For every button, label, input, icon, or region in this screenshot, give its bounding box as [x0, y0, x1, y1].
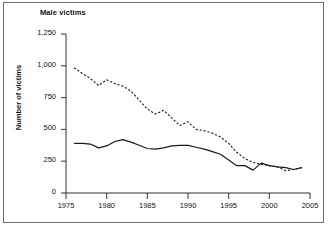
x-tick-label: 1980 [90, 201, 124, 210]
series-line-solid [74, 140, 302, 171]
x-tick-label: 1975 [49, 201, 83, 210]
y-tick-label: 0 [22, 187, 56, 196]
series-line-dashed [74, 68, 302, 171]
y-axis-ticks [61, 34, 66, 193]
y-tick-label: 500 [22, 123, 56, 132]
x-tick-label: 2000 [252, 201, 286, 210]
x-axis-ticks [66, 193, 310, 199]
y-tick-label: 1,000 [22, 60, 56, 69]
x-tick-label: 1985 [130, 201, 164, 210]
chart-axes [66, 34, 310, 193]
x-tick-label: 1990 [171, 201, 205, 210]
x-tick-label: 2005 [293, 201, 327, 210]
x-tick-label: 1995 [212, 201, 246, 210]
y-tick-label: 1,250 [22, 28, 56, 37]
y-tick-label: 250 [22, 155, 56, 164]
y-tick-label: 750 [22, 92, 56, 101]
figure-frame: Male victims Number of victims 025050075… [3, 2, 324, 223]
